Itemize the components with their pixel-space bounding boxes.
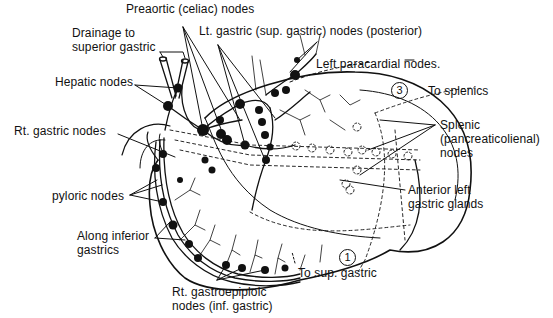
label-splenic-line1: Splenic [440,118,480,132]
label-inferior-line2: gastrics [77,243,119,257]
stomach-outline [122,72,471,290]
label-rt-gastroepiploic-line2: nodes (inf. gastric) [172,299,273,313]
label-inferior-line1: Along inferior [77,229,149,243]
label-rt-gastroepiploic-line1: Rt. gastroepiploic [172,285,267,299]
label-splenic-line2: (pancreaticolienal) [440,132,540,146]
label-lt-gastric-nodes: Lt. gastric (sup. gastric) nodes (poster… [199,24,422,38]
label-anterior-line2: gastric glands [408,197,483,211]
dashed-node-chain [292,123,412,194]
label-preaortic-nodes: Preaortic (celiac) nodes [126,2,254,16]
label-hepatic-nodes: Hepatic nodes [55,75,133,89]
label-splenic-line3: nodes [440,146,473,160]
zone-marker-1: 1 [339,249,356,266]
drainage-vessels [160,57,189,98]
label-to-splenics: To splenics [428,84,488,98]
label-pyloric-nodes: pyloric nodes [52,189,124,203]
zone-marker-3: 3 [391,82,408,99]
label-to-sup-gastric: To sup. gastric [298,266,377,280]
label-anterior-line1: Anterior left [408,183,471,197]
label-drainage-line2: superior gastric [72,40,156,54]
label-left-paracardial-nodes: Left paracardial nodes. [316,57,440,71]
label-drainage-line1: Drainage to [72,26,135,40]
label-rt-gastric-nodes: Rt. gastric nodes [14,124,106,138]
